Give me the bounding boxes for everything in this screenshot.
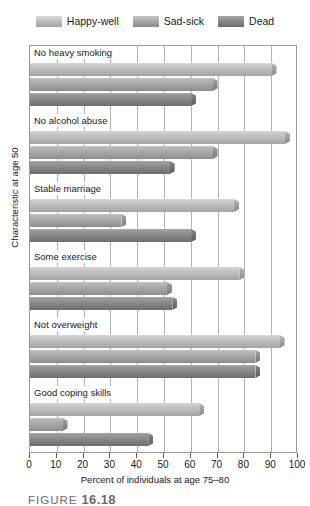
bar-body <box>30 78 213 91</box>
x-tick-label-100: 100 <box>289 459 306 470</box>
bar-body <box>30 93 191 106</box>
bar-end-cap <box>121 214 126 227</box>
x-tick-label-70: 70 <box>211 459 222 470</box>
x-tick-80 <box>243 453 244 458</box>
bar-body <box>30 131 285 144</box>
bar-group: Good coping skills <box>30 386 296 453</box>
bar-group-label: Some exercise <box>33 250 99 263</box>
x-tick-10 <box>56 453 57 458</box>
bar-group: Not overweight <box>30 318 296 386</box>
bar-dead <box>30 161 175 174</box>
x-tick-label-10: 10 <box>50 459 61 470</box>
bar-sad <box>30 350 260 363</box>
x-axis-tick-labels: 0102030405060708090100 <box>29 459 297 473</box>
bar-end-cap <box>172 297 177 310</box>
legend-entry-sad-sick: Sad-sick <box>133 16 204 27</box>
bar-group: Stable marriage <box>30 182 296 250</box>
legend-swatch-dead <box>218 16 244 27</box>
bar-sad <box>30 418 68 431</box>
bar-happy <box>30 335 285 348</box>
bar-sad <box>30 282 172 295</box>
legend-entry-dead: Dead <box>218 16 274 27</box>
bar-end-cap <box>285 131 290 144</box>
legend-entry-happy-well: Happy-well <box>36 16 119 27</box>
bar-body <box>30 350 255 363</box>
bar-body <box>30 267 239 280</box>
x-tick-label-40: 40 <box>131 459 142 470</box>
bar-happy <box>30 403 204 416</box>
y-axis-title: Characteristic at age 50 <box>9 98 20 298</box>
bar-end-cap <box>239 267 244 280</box>
bar-body <box>30 63 272 76</box>
bar-sad <box>30 214 126 227</box>
x-tick-label-20: 20 <box>77 459 88 470</box>
bar-dead <box>30 229 196 242</box>
bar-body <box>30 365 255 378</box>
x-tick-20 <box>83 453 84 458</box>
bar-end-cap <box>213 146 218 159</box>
bar-group-label: Not overweight <box>33 318 99 331</box>
bar-end-cap <box>170 161 175 174</box>
x-tick-label-90: 90 <box>265 459 276 470</box>
bar-body <box>30 214 121 227</box>
x-tick-50 <box>163 453 164 458</box>
bar-end-cap <box>213 78 218 91</box>
bar-group: No alcohol abuse <box>30 114 296 182</box>
bar-happy <box>30 199 239 212</box>
bar-end-cap <box>255 365 260 378</box>
bar-end-cap <box>191 229 196 242</box>
figure-caption-word: FIGURE <box>28 494 77 506</box>
plot-area: No heavy smokingNo alcohol abuseStable m… <box>29 45 297 453</box>
bar-end-cap <box>191 93 196 106</box>
x-tick-label-30: 30 <box>104 459 115 470</box>
figure-caption: FIGURE 16.18 <box>28 492 116 506</box>
bar-sad <box>30 78 218 91</box>
legend-label-dead: Dead <box>249 16 274 27</box>
bar-end-cap <box>148 433 153 446</box>
figure-caption-number: 16.18 <box>81 492 116 506</box>
x-tick-label-80: 80 <box>238 459 249 470</box>
bar-happy <box>30 63 277 76</box>
chart-legend: Happy-well Sad-sick Dead <box>0 10 310 32</box>
bar-body <box>30 282 167 295</box>
bar-body <box>30 335 280 348</box>
bar-body <box>30 297 172 310</box>
bar-dead <box>30 365 260 378</box>
x-tick-70 <box>217 453 218 458</box>
bar-body <box>30 418 63 431</box>
bar-dead <box>30 93 196 106</box>
bar-dead <box>30 433 153 446</box>
x-tick-60 <box>190 453 191 458</box>
bar-body <box>30 199 234 212</box>
bar-dead <box>30 297 177 310</box>
bar-group-label: No alcohol abuse <box>33 114 109 127</box>
x-tick-100 <box>297 453 298 458</box>
bar-end-cap <box>63 418 68 431</box>
x-tick-90 <box>270 453 271 458</box>
bar-group: Some exercise <box>30 250 296 318</box>
bar-body <box>30 403 199 416</box>
bar-body <box>30 229 191 242</box>
bar-body <box>30 146 213 159</box>
bar-end-cap <box>234 199 239 212</box>
legend-label-sad-sick: Sad-sick <box>164 16 204 27</box>
x-tick-30 <box>109 453 110 458</box>
bar-end-cap <box>167 282 172 295</box>
x-tick-label-60: 60 <box>184 459 195 470</box>
bar-end-cap <box>199 403 204 416</box>
bar-group-label: No heavy smoking <box>33 46 114 59</box>
legend-swatch-happy-well <box>36 16 62 27</box>
bar-group-label: Stable marriage <box>33 182 103 195</box>
bar-body <box>30 161 170 174</box>
legend-swatch-sad-sick <box>133 16 159 27</box>
x-tick-label-0: 0 <box>26 459 32 470</box>
x-tick-40 <box>136 453 137 458</box>
bar-group: No heavy smoking <box>30 46 296 114</box>
x-axis-ticks <box>29 453 297 458</box>
x-tick-label-50: 50 <box>157 459 168 470</box>
bar-end-cap <box>272 63 277 76</box>
x-tick-0 <box>29 453 30 458</box>
bar-body <box>30 433 148 446</box>
bar-sad <box>30 146 218 159</box>
bar-happy <box>30 131 290 144</box>
